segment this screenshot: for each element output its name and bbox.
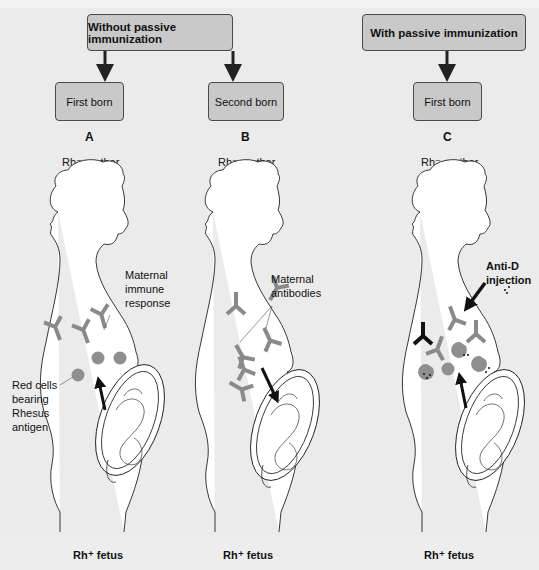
- red-cell: [72, 369, 85, 382]
- callout-line-redcells: [60, 377, 73, 385]
- callout-red-cells-rhesus-antigen: Red cells bearing Rhesus antigen: [12, 378, 57, 434]
- callout-line: antibodies: [271, 286, 321, 300]
- callout-line: Anti-D: [486, 259, 531, 273]
- fetus-label-b: Rh⁺ fetus: [223, 549, 273, 562]
- callout-line: injection: [486, 273, 531, 287]
- red-cell: [442, 363, 455, 376]
- callout-line: response: [125, 296, 170, 310]
- arrow-anti-d-injection: [468, 283, 485, 306]
- callout-line: bearing: [12, 392, 57, 406]
- callout-anti-d-injection: Anti-D injection: [486, 259, 531, 287]
- diagram-artwork: [0, 0, 539, 570]
- callout-line: antigen: [12, 420, 57, 434]
- callout-maternal-immune-response: Maternal immune response: [125, 268, 170, 310]
- mother-silhouette-a: [40, 160, 144, 532]
- fetus-label-a: Rh⁺ fetus: [73, 549, 123, 562]
- callout-line: immune: [125, 282, 170, 296]
- coated-red-cell: [418, 364, 434, 380]
- callout-line: Rhesus: [12, 406, 57, 420]
- red-cell: [114, 352, 127, 365]
- fetus-label-c: Rh⁺ fetus: [424, 549, 474, 562]
- callout-line: Maternal: [271, 272, 321, 286]
- callout-line: Red cells: [12, 378, 57, 392]
- callout-maternal-antibodies: Maternal antibodies: [271, 272, 321, 300]
- callout-line: Maternal: [125, 268, 170, 282]
- red-cell: [92, 352, 105, 365]
